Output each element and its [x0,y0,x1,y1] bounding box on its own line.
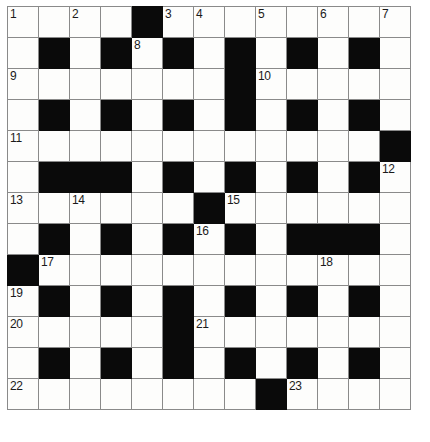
letter-cell[interactable] [132,131,163,162]
letter-cell[interactable] [101,7,132,38]
letter-cell[interactable] [132,379,163,410]
letter-cell[interactable] [132,348,163,379]
letter-cell[interactable]: 13 [8,193,39,224]
letter-cell[interactable] [380,255,411,286]
letter-cell[interactable]: 8 [132,38,163,69]
letter-cell[interactable]: 14 [70,193,101,224]
letter-cell[interactable] [132,193,163,224]
letter-cell[interactable] [132,69,163,100]
letter-cell[interactable]: 1 [8,7,39,38]
letter-cell[interactable] [318,131,349,162]
letter-cell[interactable] [70,255,101,286]
letter-cell[interactable] [380,100,411,131]
letter-cell[interactable] [8,348,39,379]
letter-cell[interactable] [349,131,380,162]
letter-cell[interactable] [380,38,411,69]
letter-cell[interactable] [194,348,225,379]
letter-cell[interactable] [380,348,411,379]
letter-cell[interactable] [256,162,287,193]
letter-cell[interactable] [101,131,132,162]
letter-cell[interactable] [256,224,287,255]
letter-cell[interactable]: 10 [256,69,287,100]
letter-cell[interactable]: 20 [8,317,39,348]
letter-cell[interactable] [256,348,287,379]
letter-cell[interactable] [70,379,101,410]
letter-cell[interactable] [256,100,287,131]
letter-cell[interactable] [194,255,225,286]
letter-cell[interactable] [70,348,101,379]
letter-cell[interactable] [256,131,287,162]
letter-cell[interactable] [349,193,380,224]
letter-cell[interactable] [101,193,132,224]
letter-cell[interactable] [39,379,70,410]
letter-cell[interactable] [349,379,380,410]
letter-cell[interactable] [256,193,287,224]
letter-cell[interactable]: 18 [318,255,349,286]
letter-cell[interactable] [39,69,70,100]
letter-cell[interactable]: 2 [70,7,101,38]
letter-cell[interactable] [380,379,411,410]
letter-cell[interactable] [318,69,349,100]
letter-cell[interactable]: 3 [163,7,194,38]
letter-cell[interactable] [101,255,132,286]
letter-cell[interactable] [8,100,39,131]
letter-cell[interactable] [70,286,101,317]
letter-cell[interactable] [287,69,318,100]
letter-cell[interactable] [287,131,318,162]
letter-cell[interactable] [70,224,101,255]
letter-cell[interactable] [287,317,318,348]
letter-cell[interactable] [194,162,225,193]
letter-cell[interactable] [349,255,380,286]
letter-cell[interactable] [225,255,256,286]
letter-cell[interactable] [287,7,318,38]
letter-cell[interactable] [70,100,101,131]
letter-cell[interactable] [380,69,411,100]
letter-cell[interactable] [349,7,380,38]
letter-cell[interactable] [318,348,349,379]
letter-cell[interactable] [256,286,287,317]
letter-cell[interactable]: 6 [318,7,349,38]
letter-cell[interactable]: 21 [194,317,225,348]
letter-cell[interactable] [194,379,225,410]
letter-cell[interactable] [194,286,225,317]
letter-cell[interactable]: 4 [194,7,225,38]
letter-cell[interactable] [163,131,194,162]
letter-cell[interactable] [318,286,349,317]
letter-cell[interactable]: 5 [256,7,287,38]
letter-cell[interactable] [101,317,132,348]
letter-cell[interactable] [8,38,39,69]
letter-cell[interactable]: 15 [225,193,256,224]
letter-cell[interactable]: 19 [8,286,39,317]
letter-cell[interactable]: 17 [39,255,70,286]
letter-cell[interactable] [39,317,70,348]
letter-cell[interactable] [256,38,287,69]
letter-cell[interactable] [132,255,163,286]
letter-cell[interactable] [70,131,101,162]
letter-cell[interactable] [163,379,194,410]
letter-cell[interactable] [194,38,225,69]
letter-cell[interactable]: 11 [8,131,39,162]
letter-cell[interactable] [318,162,349,193]
letter-cell[interactable]: 16 [194,224,225,255]
letter-cell[interactable] [39,131,70,162]
letter-cell[interactable] [225,131,256,162]
letter-cell[interactable] [287,255,318,286]
letter-cell[interactable] [256,317,287,348]
letter-cell[interactable] [349,317,380,348]
letter-cell[interactable] [8,224,39,255]
letter-cell[interactable] [163,193,194,224]
letter-cell[interactable] [70,69,101,100]
letter-cell[interactable] [194,69,225,100]
letter-cell[interactable] [132,224,163,255]
letter-cell[interactable]: 12 [380,162,411,193]
letter-cell[interactable]: 9 [8,69,39,100]
letter-cell[interactable]: 23 [287,379,318,410]
letter-cell[interactable] [163,255,194,286]
letter-cell[interactable] [39,193,70,224]
letter-cell[interactable] [225,379,256,410]
letter-cell[interactable] [132,317,163,348]
letter-cell[interactable] [39,7,70,38]
crossword-grid[interactable]: 1234567891011121314151617181920212223 [7,6,411,410]
letter-cell[interactable] [163,69,194,100]
letter-cell[interactable] [101,69,132,100]
